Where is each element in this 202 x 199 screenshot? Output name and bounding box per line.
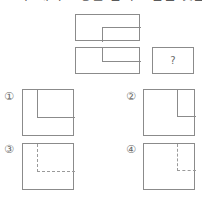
- option-4-figure[interactable]: [143, 143, 195, 190]
- stimulus-2-inner-lshape: [102, 48, 141, 62]
- option-4-inner-lines: [177, 144, 196, 171]
- option-3-inner-lines: [37, 144, 75, 172]
- question-mark-label: ?: [170, 56, 175, 66]
- question-heading-text: 그 두 개의 도형을 겹쳐 그림은 것은?: [3, 0, 202, 1]
- stimulus-1-inner-lshape: [102, 27, 141, 42]
- answer-placeholder-box: ?: [152, 47, 194, 74]
- stimulus-figure-1: [75, 14, 140, 41]
- puzzle-page: 그 두 개의 도형을 겹쳐 그림은 것은? ? ① ② ③ ④: [0, 0, 202, 199]
- stimulus-figure-2: [75, 47, 140, 74]
- option-1-marker: ①: [4, 91, 14, 102]
- option-2-inner-lines: [177, 90, 196, 117]
- option-3-marker: ③: [4, 144, 14, 155]
- option-2-marker: ②: [126, 91, 136, 102]
- option-3-figure[interactable]: [22, 143, 74, 190]
- option-2-figure[interactable]: [143, 89, 195, 136]
- option-1-inner-lines: [37, 90, 75, 118]
- option-4-marker: ④: [126, 144, 136, 155]
- question-heading-strip: 그 두 개의 도형을 겹쳐 그림은 것은?: [0, 0, 202, 9]
- option-1-figure[interactable]: [22, 89, 74, 136]
